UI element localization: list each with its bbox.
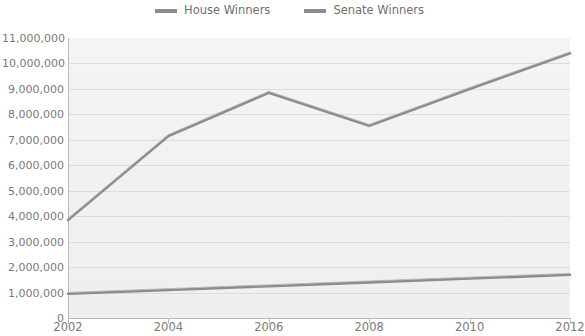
gridline bbox=[69, 216, 570, 217]
gridline bbox=[69, 293, 570, 294]
gridline bbox=[69, 114, 570, 115]
y-axis-tick-label: 4,000,000 bbox=[2, 211, 64, 222]
y-axis-tick-label: 1,000,000 bbox=[2, 287, 64, 298]
y-axis-tick-label: 5,000,000 bbox=[2, 185, 64, 196]
y-axis-tick-label: 3,000,000 bbox=[2, 236, 64, 247]
y-axis-tick-label: 6,000,000 bbox=[2, 160, 64, 171]
senate-winners-swatch bbox=[304, 9, 326, 13]
x-axis-tick-label: 2004 bbox=[154, 322, 183, 334]
y-axis-tick-label: 2,000,000 bbox=[2, 262, 64, 273]
plot-background bbox=[69, 38, 570, 318]
gridline bbox=[69, 165, 570, 166]
x-axis-tick-label: 2006 bbox=[254, 322, 283, 334]
x-axis-tick-label: 2008 bbox=[355, 322, 384, 334]
gridline bbox=[69, 140, 570, 141]
legend-label-house-winners: House Winners bbox=[184, 5, 270, 17]
x-axis-tick-label: 2002 bbox=[53, 322, 82, 334]
gridline bbox=[69, 89, 570, 90]
gridline bbox=[69, 267, 570, 268]
y-axis-tick-label: 9,000,000 bbox=[2, 83, 64, 94]
gridline bbox=[69, 63, 570, 64]
legend-item-house-winners[interactable]: House Winners bbox=[155, 5, 270, 17]
x-axis-tick-label: 2012 bbox=[555, 322, 584, 334]
gridline bbox=[69, 242, 570, 243]
x-axis-tick-label: 2010 bbox=[455, 322, 484, 334]
gridline bbox=[69, 191, 570, 192]
x-axis-line bbox=[68, 318, 570, 319]
y-axis-labels: 01,000,0002,000,0003,000,0004,000,0005,0… bbox=[0, 0, 64, 336]
plot-area bbox=[68, 38, 570, 318]
y-axis-tick-label: 7,000,000 bbox=[2, 134, 64, 145]
legend-label-senate-winners: Senate Winners bbox=[333, 5, 424, 17]
y-axis-tick-label: 11,000,000 bbox=[2, 33, 64, 44]
chart-legend: House Winners Senate Winners bbox=[0, 0, 579, 22]
legend-item-senate-winners[interactable]: Senate Winners bbox=[304, 5, 424, 17]
house-winners-swatch bbox=[155, 9, 177, 13]
y-axis-tick-label: 8,000,000 bbox=[2, 109, 64, 120]
y-axis-tick-label: 10,000,000 bbox=[2, 58, 64, 69]
